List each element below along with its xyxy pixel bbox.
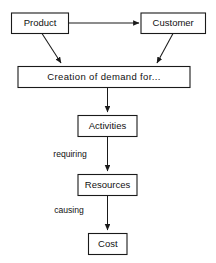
node-activities: Activities (78, 116, 137, 137)
node-product: Product (12, 13, 69, 34)
node-resources: Resources (78, 175, 137, 196)
diagram-canvas: Product Customer Creation of demand for.… (0, 0, 216, 263)
flowchart-diagram: Product Customer Creation of demand for.… (0, 0, 216, 263)
node-resources-label: Resources (85, 179, 131, 190)
edge-label-causing: causing (54, 205, 84, 215)
node-creation-of-demand: Creation of demand for... (18, 67, 190, 88)
node-cost: Cost (89, 234, 128, 255)
edge-label-requiring: requiring (53, 149, 87, 159)
node-customer: Customer (141, 13, 206, 34)
node-creation-of-demand-label: Creation of demand for... (47, 71, 160, 82)
node-product-label: Product (24, 17, 57, 28)
node-activities-label: Activities (89, 120, 127, 131)
edge-customer-to-creation (157, 34, 173, 64)
node-cost-label: Cost (98, 238, 118, 249)
edge-product-to-creation (42, 34, 61, 64)
node-customer-label: Customer (153, 17, 194, 28)
